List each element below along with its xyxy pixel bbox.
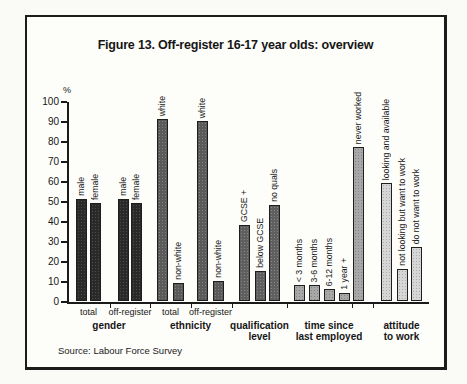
bar-label-attitude-to-work-do-not-want-to-work: do not want to work (411, 169, 422, 244)
bar-label-time-since-last-employed-3-6-months: 3-6 months (309, 239, 320, 282)
bar-gender-total-male (76, 199, 87, 301)
bar-gender-off-register-male (118, 199, 129, 301)
subgroup-label-ethnicity-total: total (162, 307, 179, 317)
bar-label-attitude-to-work-looking-and-available: looking and available (381, 99, 392, 180)
x-axis-tick (373, 304, 374, 308)
group-label-attitude-to-work: attitude to work (383, 320, 419, 342)
y-axis-tick (61, 261, 67, 263)
bar-qualification-level-gcse (239, 225, 250, 301)
group-label-gender: gender (92, 320, 125, 331)
bar-label-qualification-level-gcse: GCSE + (239, 190, 250, 222)
y-axis-tick-label: 20 (33, 257, 59, 267)
y-axis-tick (61, 301, 67, 303)
bar-ethnicity-off-register-white (197, 121, 208, 301)
x-axis-tick (287, 304, 288, 308)
bar-label-qualification-level-no-quals: no quals (269, 169, 280, 202)
y-axis-tick (61, 101, 67, 103)
y-axis-tick-label: 30 (33, 237, 59, 247)
x-axis-tick (232, 304, 233, 308)
y-axis-line (67, 102, 69, 302)
y-axis-tick (61, 141, 67, 143)
x-axis-tick (110, 304, 111, 308)
x-axis-tick (352, 304, 353, 308)
x-axis-line (67, 302, 429, 304)
y-axis-tick (61, 201, 67, 203)
bar-label-time-since-last-employed-3-months: < 3 months (294, 239, 305, 282)
group-label-qualification-level: qualification level (230, 320, 289, 342)
y-axis-tick-label: 50 (33, 197, 59, 207)
bar-time-since-last-employed-never-worked (353, 147, 364, 301)
y-axis-tick-label: 60 (33, 177, 59, 187)
bar-label-gender-off-register-male: male (118, 177, 129, 196)
y-axis-tick-label: 100 (33, 97, 59, 107)
bar-gender-off-register-female (131, 203, 142, 301)
y-axis-tick (61, 161, 67, 163)
bar-gender-total-female (90, 203, 101, 301)
figure-box: Figure 13. Off-register 16-17 year olds:… (25, 15, 447, 370)
bar-label-gender-off-register-female: female (131, 174, 142, 200)
bar-label-ethnicity-total-non-white: non-white (173, 242, 184, 280)
bar-attitude-to-work-looking-and-available (381, 183, 392, 301)
bar-ethnicity-total-white (157, 119, 168, 301)
y-axis-tick-label: 0 (33, 297, 59, 307)
bar-label-gender-total-female: female (90, 174, 101, 200)
y-axis-tick (61, 281, 67, 283)
y-axis-tick (61, 121, 67, 123)
bar-ethnicity-off-register-non-white (213, 281, 224, 301)
y-axis-unit-label: % (63, 85, 71, 95)
group-label-ethnicity: ethnicity (170, 320, 211, 331)
bar-chart: %1009080706050403020100malefemaletotalma… (27, 17, 444, 367)
bar-label-ethnicity-off-register-non-white: non-white (213, 240, 224, 278)
bar-label-time-since-last-employed-6-12-months: 6-12 months (324, 238, 335, 286)
y-axis-tick-label: 10 (33, 277, 59, 287)
bar-label-qualification-level-below-gcse: below GCSE (255, 218, 266, 268)
bar-attitude-to-work-do-not-want-to-work (411, 247, 422, 301)
bar-qualification-level-below-gcse (255, 271, 266, 301)
y-axis-tick-label: 40 (33, 217, 59, 227)
bar-time-since-last-employed-6-12-months (324, 289, 335, 301)
bar-label-ethnicity-total-white: white (157, 96, 168, 116)
y-axis-tick-label: 80 (33, 137, 59, 147)
y-axis-tick (61, 181, 67, 183)
y-axis-tick (61, 241, 67, 243)
group-label-time-since-last-employed: time since last employed (296, 320, 363, 342)
bar-attitude-to-work-not-looking-but-want-to-work (397, 269, 408, 301)
y-axis-tick-label: 70 (33, 157, 59, 167)
bar-label-gender-total-male: male (76, 177, 87, 196)
y-axis-tick-label: 90 (33, 117, 59, 127)
bar-time-since-last-employed-3-6-months (309, 285, 320, 301)
x-axis-tick (150, 304, 151, 308)
y-axis-tick (61, 221, 67, 223)
bar-ethnicity-total-non-white (173, 283, 184, 301)
bar-qualification-level-no-quals (269, 205, 280, 301)
bar-label-attitude-to-work-not-looking-but-want-to-work: not looking but want to work (397, 158, 408, 266)
bar-label-time-since-last-employed-never-worked: never worked (353, 92, 364, 144)
source-note: Source: Labour Force Survey (58, 345, 182, 356)
subgroup-label-ethnicity-off-register: off-register (189, 307, 232, 317)
subgroup-label-gender-total: total (80, 307, 97, 317)
x-axis-tick (191, 304, 192, 308)
subgroup-label-gender-off-register: off-register (109, 307, 152, 317)
bar-label-time-since-last-employed-1-year: 1 year + (339, 258, 350, 290)
bar-label-ethnicity-off-register-white: white (197, 98, 208, 118)
bar-time-since-last-employed-1-year (339, 293, 350, 301)
bar-time-since-last-employed-3-months (294, 285, 305, 301)
scanned-report-page: { "figure": { "title": "Figure 13. Off-r… (0, 0, 467, 384)
